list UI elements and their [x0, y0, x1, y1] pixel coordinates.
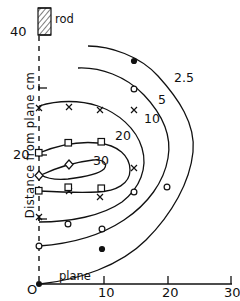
contour-label-30: 30 — [93, 155, 109, 168]
origin-label: O — [27, 283, 37, 296]
x-axis-tick-label-30: 30 — [224, 286, 240, 299]
contour-line-2point5 — [40, 46, 193, 284]
contour-label-20: 20 — [115, 130, 131, 143]
contour-label-2point5: 2.5 — [174, 72, 194, 85]
x-axis-tick-label-20: 20 — [162, 286, 179, 299]
contour-label-5: 5 — [158, 94, 166, 107]
y-axis-tick-label-40: 40 — [10, 25, 27, 38]
contour-plot-figure: 40 rod 20 O 10 20 30 plane 2.5 5 10 20 3… — [0, 0, 240, 301]
contour-label-10: 10 — [144, 113, 160, 126]
contour-line-20 — [39, 143, 130, 193]
rod-symbol — [38, 8, 51, 35]
plane-label: plane — [59, 271, 91, 283]
y-axis-title: Distance from plane cm — [23, 60, 37, 230]
x-axis-tick-label-10: 10 — [98, 286, 115, 299]
rod-label: rod — [55, 14, 74, 26]
